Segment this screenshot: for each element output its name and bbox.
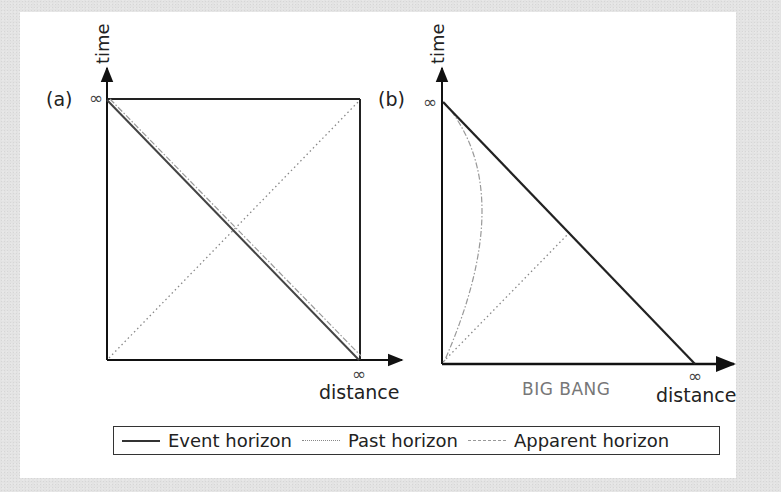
legend-label: Event horizon [168, 430, 292, 451]
panel-a-label: (a) [46, 88, 72, 110]
legend-item-event-horizon: Event horizon [120, 430, 292, 451]
panel-b-distance-label: distance [656, 384, 737, 406]
panel-b-distance-infinity: ∞ [688, 366, 702, 386]
panel-a-plot [107, 68, 402, 360]
panel-b-apparent-horizon [444, 102, 482, 362]
panel-a-time-label: time [92, 23, 113, 64]
legend-item-apparent-horizon: Apparent horizon [466, 430, 669, 451]
solid-line-swatch-icon [122, 440, 160, 442]
legend-item-past-horizon: Past horizon [300, 430, 458, 451]
panel-a-distance-label: distance [319, 381, 400, 403]
panel-b-label: (b) [378, 88, 405, 110]
spacetime-diagrams [0, 0, 781, 492]
panel-b-time-infinity: ∞ [423, 92, 437, 112]
big-bang-label: BIG BANG [522, 379, 610, 399]
panel-b-plot [442, 68, 734, 364]
panel-a-time-infinity: ∞ [89, 88, 103, 108]
legend-label: Past horizon [348, 430, 458, 451]
panel-a-event-horizon [107, 100, 359, 360]
panel-b-past-horizon [443, 232, 570, 362]
legend: Event horizon Past horizon Apparent hori… [113, 426, 720, 455]
dashdot-line-swatch-icon [468, 440, 506, 441]
panel-b-time-label: time [427, 23, 448, 64]
dotted-line-swatch-icon [302, 440, 340, 441]
legend-label: Apparent horizon [514, 430, 669, 451]
